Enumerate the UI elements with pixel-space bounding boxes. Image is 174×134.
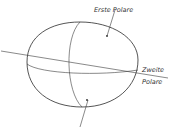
first-polar-point	[106, 35, 108, 37]
second-polar-label-line2: Polare	[142, 78, 162, 86]
meridian-curve	[69, 22, 82, 107]
first-polar-label: Erste Polare	[94, 6, 133, 14]
lower-polar-point	[86, 99, 88, 101]
lower-polar-line	[80, 100, 88, 127]
ellipsoid-polar-diagram: Erste Polare Zweite Polare	[0, 0, 174, 134]
ellipsoid-outline	[27, 22, 138, 107]
equator-curve	[27, 64, 138, 73]
second-polar-label-line1: Zweite	[141, 66, 164, 74]
